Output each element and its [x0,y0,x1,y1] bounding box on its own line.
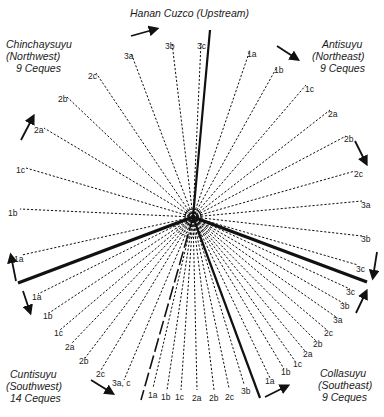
ceque-label-collasuyu: 1a [265,376,275,386]
ceque-label-antisuyu: 1c [305,84,315,94]
ceque-label-chinchaysuyu: 2b [58,94,68,104]
ceque-label-cuntisuyu: 1c [54,328,64,338]
ceque-label-chinchaysuyu: 1b [8,208,18,218]
region-name: Cuntisuyu [6,368,62,380]
ceque-label-chinchaysuyu: 2a [34,125,44,135]
region-direction: (Northwest) [6,50,72,62]
ceque-label-cuntisuyu: 1a [32,292,42,302]
ceque-label-cuntisuyu: 3a, c [112,378,131,388]
ceque-label-chinchaysuyu: 2c [88,71,98,81]
ceque-line-chinchaysuyu-1b [20,209,193,217]
cuntisuyu-label: Cuntisuyu (Southwest) 14 Ceques [6,368,62,404]
ceque-line-chinchaysuyu-2c [96,73,193,217]
ceque-line-antisuyu-2c [193,171,355,217]
ceque-label-cuntisuyu: 1c [175,392,185,402]
ceque-label-antisuyu: 1b [274,65,284,75]
ceque-label-cuntisuyu: 2a [65,342,75,352]
ceque-label-chinchaysuyu: 3a [124,51,134,61]
region-count: 14 Ceques [6,392,62,404]
ceque-line-collasuyu-3a [193,217,336,317]
ceque-label-collasuyu: 3b [340,301,350,311]
ceque-label-antisuyu: 2b [344,134,354,144]
ceque-line-antisuyu-3c [193,217,358,265]
ceque-label-chinchaysuyu: 1c [16,165,26,175]
ceque-label-collasuyu: 3c [346,287,356,297]
ceque-label-collasuyu: 3a [333,315,343,325]
ceque-line-cuntisuyu-1c [60,217,193,330]
ceque-label-cuntisuyu: 3b [241,386,251,396]
ceque-label-cuntisuyu: 1b [161,392,171,402]
region-direction: (Southwest) [6,380,62,392]
ceque-label-collasuyu: 2b [313,339,323,349]
ceque-label-antisuyu: 3c [356,264,366,274]
ceque-line-cuntisuyu-1b [167,217,193,390]
ceque-label-cuntisuyu: 2b [79,356,89,366]
region-name: Antisuyu [320,38,365,50]
region-count: 9 Ceques [6,62,72,74]
ceque-label-chinchaysuyu: 1a [14,254,24,264]
ceque-line-antisuyu-1c [193,85,306,217]
arrow-west-down-icon [23,291,30,312]
ceque-label-chinchaysuyu: 3c [197,41,207,51]
ceque-label-chinchaysuyu: 3b [165,41,175,51]
ceque-line-cuntisuyu-1c [181,217,193,390]
ceque-line-chinchaysuyu-3c [193,43,201,217]
north-boundary [193,30,210,217]
collasuyu-label: Collasuyu (Southeast) 9 Ceques [318,367,372,403]
ceque-label-cuntisuyu: 1b [43,311,53,321]
region-count: 9 Ceques [320,62,365,74]
arrow-south-icon [265,386,287,397]
ceque-label-antisuyu: 3a [361,200,371,210]
arrow-southwest-icon [91,380,112,393]
ceque-line-cuntisuyu-2c [101,217,193,370]
ceque-label-collasuyu: 1b [281,367,291,377]
arrow-southeast-up-icon [356,292,366,313]
ceque-label-cuntisuyu: 2a [192,393,202,403]
ceque-line-chinchaysuyu-2a [44,128,193,217]
chinchaysuyu-label: Chinchaysuyu (Northwest) 9 Ceques [6,38,72,74]
ceque-line-chinchaysuyu-3a [131,53,193,217]
region-name: Collasuyu [318,367,372,379]
region-direction: (Northeast) [312,50,365,62]
region-name: Chinchaysuyu [6,38,72,50]
ceque-label-collasuyu: 1c [293,359,303,369]
arrow-northwest-icon [21,117,33,140]
ceque-label-antisuyu: 2c [354,169,364,179]
arrow-northeast-icon [277,46,297,59]
ceque-label-cuntisuyu: 2c [225,392,235,402]
ceque-label-cuntisuyu: 2c [96,369,106,379]
ceque-line-antisuyu-2b [193,136,346,217]
arrow-north-icon [131,29,156,36]
hanan-cuzco-title: Hanan Cuzco (Upstream) [130,7,249,19]
ceque-line-cuntisuyu-1b [49,217,193,313]
arrow-east-upper-icon [355,141,366,163]
ceque-label-antisuyu: 1a [247,49,257,59]
ceque-label-antisuyu: 3b [361,234,371,244]
south-boundary [193,217,260,398]
region-count: 9 Ceques [318,391,372,403]
ceque-label-collasuyu: 2c [324,328,334,338]
ceque-label-antisuyu: 2a [328,109,338,119]
ceque-line-chinchaysuyu-1c [26,168,193,217]
ceque-line-antisuyu-2a [193,110,330,217]
ceque-label-cuntisuyu: 1a [148,390,158,400]
ceque-line-chinchaysuyu-3b [172,43,193,217]
ceque-line-cuntisuyu-3ac [124,217,193,380]
ceque-label-cuntisuyu: 2b [209,393,219,403]
ceque-label-collasuyu: 2a [303,349,313,359]
arrow-east-lower-icon [373,252,377,277]
region-direction: (Southeast) [318,379,372,391]
antisuyu-label: Antisuyu (Northeast) 9 Ceques [320,38,365,74]
